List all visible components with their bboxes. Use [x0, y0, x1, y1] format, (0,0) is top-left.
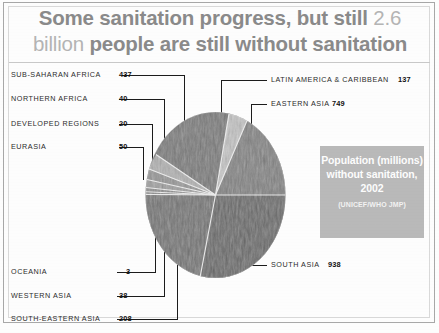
value-south-asia: 938 [328, 260, 341, 269]
value-eastern-asia: 749 [332, 99, 345, 108]
title-line-1: Some sanitation progress, but still 2.6 [10, 5, 430, 31]
label-eastern-asia: EASTERN ASIA [271, 99, 330, 108]
caption-source-text: (UNICEF/WHO JMP) [320, 201, 424, 208]
value-northern-africa: 40 [119, 94, 128, 103]
value-western-asia: 38 [119, 291, 128, 300]
title-line-2: billion people are still without sanitat… [10, 31, 430, 57]
label-south-eastern-asia: SOUTH-EASTERN ASIA [11, 314, 100, 323]
value-sub-saharan-africa: 437 [119, 70, 132, 79]
value-developed-regions: 20 [119, 119, 128, 128]
caption-main-text: Population (millions) without sanitation… [320, 153, 424, 195]
pie-chart [144, 111, 287, 280]
label-latin-america-caribbean: LATIN AMERICA & CARIBBEAN [271, 75, 389, 84]
label-sub-saharan-africa: SUB-SAHARAN AFRICA [11, 70, 101, 79]
label-western-asia: WESTERN ASIA [11, 291, 72, 300]
pie-chart-svg [144, 111, 287, 280]
label-northern-africa: NORTHERN AFRICA [11, 94, 88, 103]
label-developed-regions: DEVELOPED REGIONS [11, 119, 99, 128]
slide-canvas: Some sanitation progress, but still 2.6 … [0, 0, 439, 333]
value-south-eastern-asia: 208 [119, 314, 132, 323]
value-oceania: 3 [126, 267, 130, 276]
title-divider [9, 62, 430, 63]
label-south-asia: SOUTH ASIA [271, 260, 320, 269]
value-eurasia: 50 [119, 142, 128, 151]
label-eurasia: EURASIA [11, 142, 46, 151]
title-line-1-bold: Some sanitation progress, but still [39, 6, 374, 29]
caption-box: Population (millions) without sanitation… [320, 146, 424, 238]
title-line-2-bold: people are still without sanitation [89, 32, 407, 55]
title-line-1-light: 2.6 [373, 6, 401, 29]
label-oceania: OCEANIA [11, 267, 47, 276]
page-title: Some sanitation progress, but still 2.6 … [10, 5, 430, 60]
value-latin-america-caribbean: 137 [398, 75, 411, 84]
title-line-2-light: billion [33, 32, 90, 55]
